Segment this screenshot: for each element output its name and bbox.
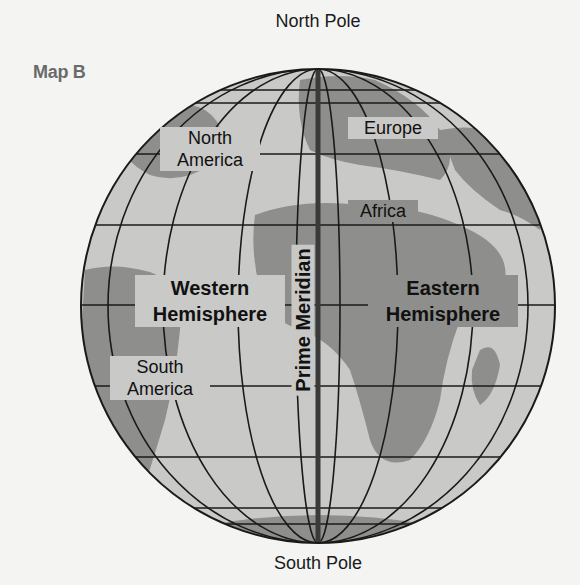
africa-label: Africa [348, 200, 418, 222]
eastern-hemisphere-label: Eastern Hemisphere [368, 275, 518, 327]
prime-meridian-label: Prime Meridian [292, 244, 315, 395]
south-america-label: South America [110, 356, 210, 400]
europe-label: Europe [348, 117, 438, 139]
western-hemisphere-label: Western Hemisphere [135, 275, 285, 327]
north-america-label: North America [160, 127, 260, 171]
